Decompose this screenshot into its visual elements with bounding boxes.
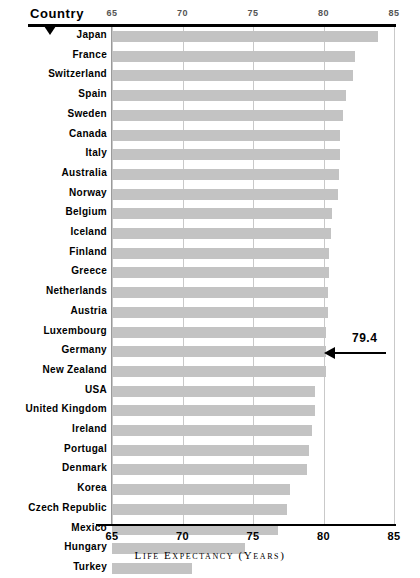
bar-row: Denmark (0, 460, 420, 480)
bar-row: Czech Republic (0, 500, 420, 520)
bar-row: Finland (0, 244, 420, 264)
country-label-greece: Greece (0, 265, 107, 276)
bar-row: France (0, 47, 420, 67)
bar-korea (112, 484, 290, 495)
bar-row: Iceland (0, 224, 420, 244)
country-label-usa: USA (0, 384, 107, 395)
bottom-tick-label-70: 70 (176, 530, 189, 542)
top-tick-label-70: 70 (177, 8, 188, 18)
bar-row: Switzerland (0, 66, 420, 86)
country-label-belgium: Belgium (0, 206, 107, 217)
x-axis-title: Life Expectancy (Years) (0, 549, 420, 561)
bar-row: Sweden (0, 106, 420, 126)
bar-row: USA (0, 382, 420, 402)
bar-canada (112, 130, 340, 141)
bar-row: Ireland (0, 421, 420, 441)
country-label-france: France (0, 49, 107, 60)
country-label-germany: Germany (0, 344, 107, 355)
country-label-austria: Austria (0, 305, 107, 316)
plot-area: JapanFranceSwitzerlandSpainSwedenCanadaI… (0, 27, 420, 524)
bar-row: United Kingdom (0, 401, 420, 421)
country-label-netherlands: Netherlands (0, 285, 107, 296)
bottom-tick-label-80: 80 (317, 530, 330, 542)
country-label-finland: Finland (0, 246, 107, 257)
bar-row: Norway (0, 185, 420, 205)
bar-switzerland (112, 70, 353, 81)
arrow-left-icon (324, 347, 335, 359)
bar-ireland (112, 425, 312, 436)
country-column-header: Country (30, 7, 84, 21)
country-label-canada: Canada (0, 128, 107, 139)
country-label-australia: Australia (0, 167, 107, 178)
bar-row: Belgium (0, 204, 420, 224)
bar-sweden (112, 110, 343, 121)
bar-row: Australia (0, 165, 420, 185)
bar-finland (112, 248, 329, 259)
country-label-norway: Norway (0, 187, 107, 198)
top-tick-label-80: 80 (318, 8, 329, 18)
bar-iceland (112, 228, 331, 239)
country-label-switzerland: Switzerland (0, 68, 107, 79)
country-label-sweden: Sweden (0, 108, 107, 119)
bar-united-kingdom (112, 405, 315, 416)
bar-czech-republic (112, 504, 287, 515)
bar-new-zealand (112, 366, 326, 377)
bar-row: Netherlands (0, 283, 420, 303)
bar-row: New Zealand (0, 362, 420, 382)
country-label-japan: Japan (0, 29, 107, 40)
bar-row: Turkey (0, 559, 420, 578)
country-label-united-kingdom: United Kingdom (0, 403, 107, 414)
bar-luxembourg (112, 327, 326, 338)
bar-austria (112, 307, 328, 318)
country-label-czech-republic: Czech Republic (0, 502, 107, 513)
country-label-luxembourg: Luxembourg (0, 325, 107, 336)
country-label-turkey: Turkey (0, 561, 107, 572)
bar-belgium (112, 208, 332, 219)
bar-row: Austria (0, 303, 420, 323)
bar-netherlands (112, 287, 328, 298)
arrow-left-icon-shaft (334, 352, 386, 354)
bar-norway (112, 189, 338, 200)
bar-row: Canada (0, 126, 420, 146)
bottom-tick-label-75: 75 (246, 530, 259, 542)
bar-row: Italy (0, 145, 420, 165)
usa-callout-value: 79.4 (352, 331, 377, 345)
top-tick-label-85: 85 (388, 8, 399, 18)
top-tick-label-75: 75 (247, 8, 258, 18)
bar-row: Greece (0, 263, 420, 283)
bar-usa (112, 386, 315, 397)
bar-spain (112, 90, 346, 101)
bar-portugal (112, 445, 309, 456)
country-label-new-zealand: New Zealand (0, 364, 107, 375)
country-label-korea: Korea (0, 482, 107, 493)
bar-turkey (112, 563, 192, 574)
bar-row: Portugal (0, 441, 420, 461)
country-label-spain: Spain (0, 88, 107, 99)
country-label-iceland: Iceland (0, 226, 107, 237)
country-label-italy: Italy (0, 147, 107, 158)
bar-greece (112, 267, 329, 278)
bar-australia (112, 169, 339, 180)
country-label-portugal: Portugal (0, 443, 107, 454)
bottom-tick-label-65: 65 (105, 530, 118, 542)
bar-france (112, 51, 355, 62)
bar-japan (112, 31, 378, 42)
country-label-ireland: Ireland (0, 423, 107, 434)
country-label-mexico: Mexico (0, 522, 107, 533)
bar-row: Mexico (0, 520, 420, 540)
bottom-tick-label-85: 85 (387, 530, 400, 542)
country-label-denmark: Denmark (0, 462, 107, 473)
bottom-axis-rule (96, 524, 396, 526)
bar-row: Japan (0, 27, 420, 47)
bar-row: Spain (0, 86, 420, 106)
top-tick-label-65: 65 (106, 8, 117, 18)
bar-row: Korea (0, 480, 420, 500)
bar-italy (112, 149, 340, 160)
bar-denmark (112, 464, 307, 475)
bar-germany (112, 346, 326, 357)
